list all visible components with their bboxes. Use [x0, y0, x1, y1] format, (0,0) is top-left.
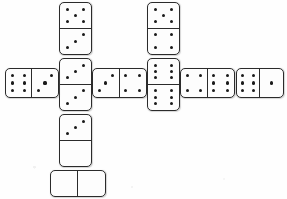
pip-grid [148, 59, 179, 84]
domino-half-top [60, 59, 91, 85]
pip-grid [208, 69, 235, 97]
pip-grid [148, 85, 179, 111]
pip-dot [82, 20, 85, 23]
pip-dot [37, 89, 40, 92]
pip-dot [154, 76, 157, 79]
pip-dot [11, 89, 14, 92]
pip-grid [60, 3, 91, 28]
pip-grid [93, 69, 119, 97]
pip-dot [226, 89, 229, 92]
pip-grid [6, 69, 31, 97]
pip-grid [60, 141, 91, 167]
domino-half-right [32, 69, 58, 97]
pip-dot [170, 33, 173, 36]
domino-half-top [148, 3, 179, 29]
pip-grid [148, 3, 179, 28]
pip-dot [111, 74, 114, 77]
pip-dot [186, 74, 189, 77]
pip-dot [66, 102, 69, 105]
pip-dot [66, 76, 69, 79]
pip-dot [241, 89, 244, 92]
domino-half-bottom [60, 29, 91, 55]
pip-grid [60, 59, 91, 84]
pip-dot [186, 89, 189, 92]
pip-dot [170, 70, 173, 73]
pip-grid [60, 115, 91, 140]
pip-dot [154, 8, 157, 11]
domino-half-bottom [60, 85, 91, 111]
domino-half-left [51, 171, 78, 196]
pip-dot [252, 74, 255, 77]
pip-dot [170, 89, 173, 92]
pip-dot [104, 81, 107, 84]
vertical-3-0[interactable] [59, 114, 92, 167]
pip-dot [154, 102, 157, 105]
pip-dot [226, 81, 229, 84]
pip-dot [66, 8, 69, 11]
pip-dot [170, 46, 173, 49]
domino-half-left [93, 69, 120, 97]
pip-dot [66, 46, 69, 49]
domino-half-left [237, 69, 260, 97]
pip-dot [199, 89, 202, 92]
horizontal-0-0[interactable] [50, 170, 106, 197]
pip-dot [43, 81, 46, 84]
horizontal-6-1[interactable] [236, 68, 284, 98]
pip-dot [50, 74, 53, 77]
domino-half-left [181, 69, 208, 97]
domino-half-top [60, 3, 91, 29]
vertical-6-6[interactable] [147, 58, 180, 111]
pip-dot [199, 74, 202, 77]
pip-dot [170, 102, 173, 105]
pip-dot [66, 20, 69, 23]
pip-dot [154, 89, 157, 92]
domino-half-bottom [148, 29, 179, 55]
pip-dot [212, 74, 215, 77]
domino-half-left [6, 69, 32, 97]
pip-grid [237, 69, 259, 97]
pip-dot [11, 74, 14, 77]
pip-grid [78, 171, 105, 196]
pip-grid [32, 69, 58, 97]
horizontal-4-6[interactable] [180, 68, 235, 98]
pip-dot [138, 74, 141, 77]
pip-grid [60, 29, 91, 55]
pip-grid [181, 69, 207, 97]
pip-dot [11, 81, 14, 84]
pip-dot [82, 89, 85, 92]
pip-grid [60, 85, 91, 111]
vertical-5-3[interactable] [59, 2, 92, 55]
pip-dot [154, 46, 157, 49]
pip-dot [124, 89, 127, 92]
pip-dot [170, 8, 173, 11]
pip-dot [154, 96, 157, 99]
pip-grid [148, 29, 179, 55]
pip-dot [212, 81, 215, 84]
domino-half-top [60, 115, 91, 141]
pip-dot [74, 126, 77, 129]
pip-dot [241, 74, 244, 77]
pip-grid [51, 171, 77, 196]
pip-dot [154, 33, 157, 36]
pip-dot [98, 89, 101, 92]
domino-half-right [208, 69, 235, 97]
pip-dot [154, 64, 157, 67]
domino-half-right [78, 171, 105, 196]
pip-dot [74, 14, 77, 17]
pip-dot [162, 14, 165, 17]
pip-dot [23, 81, 26, 84]
horizontal-6-3[interactable] [5, 68, 59, 98]
pip-dot [252, 81, 255, 84]
domino-half-bottom [60, 141, 91, 167]
pip-grid [120, 69, 147, 97]
pip-dot [170, 64, 173, 67]
pip-dot [270, 81, 273, 84]
vertical-5-4[interactable] [147, 2, 180, 55]
pip-dot [154, 20, 157, 23]
vertical-3-3[interactable] [59, 58, 92, 111]
domino-half-right [120, 69, 147, 97]
horizontal-3-4[interactable] [92, 68, 147, 98]
pip-dot [82, 120, 85, 123]
pip-grid [260, 69, 283, 97]
pip-dot [82, 33, 85, 36]
